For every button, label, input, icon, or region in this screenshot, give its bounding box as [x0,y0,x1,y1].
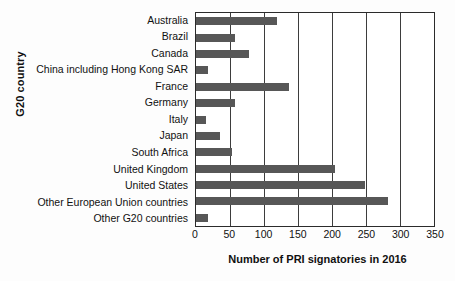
bar-united-kingdom [196,165,335,173]
bar-row [196,62,434,78]
category-label-japan: Japan [16,128,192,145]
category-label-germany: Germany [16,95,192,112]
bar-row [196,161,434,177]
bar-france [196,83,289,91]
bar-italy [196,116,206,124]
category-label-other-european-union-countries: Other European Union countries [16,194,192,211]
bar-japan [196,132,220,140]
bar-series [196,13,434,226]
bar-row [196,111,434,127]
category-label-south-africa: South Africa [16,144,192,161]
category-label-italy: Italy [16,111,192,128]
x-axis-title: Number of PRI signatories in 2016 [195,253,440,265]
bar-germany [196,99,235,107]
bar-row [196,128,434,144]
bar-row [196,29,434,45]
bar-china-including-hong-kong-sar [196,66,208,74]
category-label-other-g20-countries: Other G20 countries [16,210,192,227]
category-label-brazil: Brazil [16,29,192,46]
bar-row [196,210,434,226]
x-tick-label-350: 350 [415,228,455,240]
bar-united-states [196,181,365,189]
bar-row [196,13,434,29]
bar-other-g20-countries [196,214,208,222]
bar-australia [196,17,277,25]
bar-row [196,144,434,160]
category-label-united-states: United States [16,177,192,194]
category-label-china-including-hong-kong-sar: China including Hong Kong SAR [16,62,192,79]
bar-row [196,177,434,193]
category-label-canada: Canada [16,45,192,62]
category-label-united-kingdom: United Kingdom [16,161,192,178]
bar-chart-figure: G20 country Australia Brazil Canada Chin… [0,0,455,281]
category-label-australia: Australia [16,12,192,29]
category-label-france: France [16,78,192,95]
bar-brazil [196,34,235,42]
plot-area [195,12,435,227]
bar-row [196,193,434,209]
category-axis-labels: Australia Brazil Canada China including … [16,12,192,227]
bar-row [196,95,434,111]
bar-south-africa [196,148,232,156]
bar-row [196,79,434,95]
bar-other-european-union-countries [196,197,388,205]
x-axis-tick-labels: 050100150200250300350 [195,228,435,244]
bar-canada [196,50,249,58]
bar-row [196,46,434,62]
